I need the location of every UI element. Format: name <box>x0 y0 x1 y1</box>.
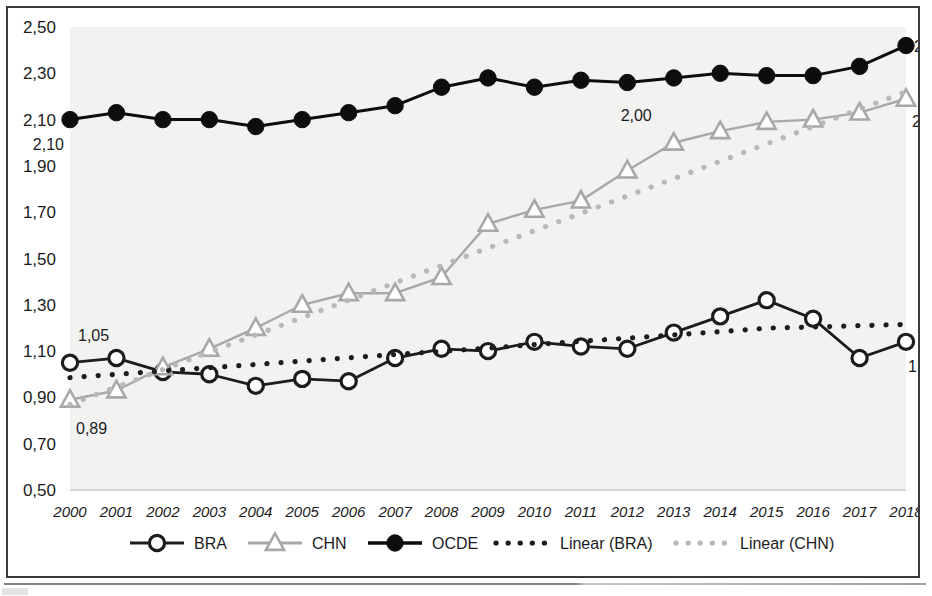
data-point-marker <box>666 70 682 86</box>
y-tick-label: 0,90 <box>23 388 56 407</box>
y-tick-label: 1,10 <box>23 342 56 361</box>
data-point-marker <box>619 74 635 90</box>
data-point-label: 2,10 <box>33 136 64 153</box>
data-point-marker <box>898 37 914 53</box>
plot-background <box>70 27 906 490</box>
data-point-marker <box>620 341 635 356</box>
y-tick-label: 1,70 <box>23 203 56 222</box>
data-point-label: 2,19 <box>912 113 918 130</box>
x-tick-label: 2009 <box>470 503 505 520</box>
x-tick-label: 2014 <box>703 503 737 520</box>
data-point-label: 1,14 <box>908 358 918 375</box>
data-point-label: 2,42 <box>914 38 918 55</box>
scan-artifact-line <box>4 583 926 585</box>
legend-item-chn[interactable]: CHN <box>248 533 347 552</box>
legend-item-bra[interactable]: BRA <box>130 535 227 552</box>
data-point-marker <box>155 111 171 127</box>
data-point-marker <box>480 70 496 86</box>
chart-legend: BRACHNOCDELinear (BRA)Linear (CHN) <box>130 533 834 552</box>
y-tick-label: 0,70 <box>23 435 56 454</box>
data-point-marker <box>248 118 264 134</box>
y-tick-label: 2,50 <box>23 18 56 37</box>
line-chart: 0,500,700,901,101,301,501,701,902,102,30… <box>8 8 918 576</box>
legend-label: Linear (BRA) <box>560 535 652 552</box>
data-point-marker <box>248 378 263 393</box>
x-tick-label: 2000 <box>52 503 87 520</box>
x-tick-label: 2005 <box>285 503 320 520</box>
legend-label: CHN <box>312 535 347 552</box>
x-tick-label: 2007 <box>377 503 412 520</box>
data-point-marker <box>898 334 913 349</box>
data-point-marker <box>758 67 774 83</box>
data-point-label: 2,00 <box>621 107 652 124</box>
y-tick-label: 2,10 <box>23 111 56 130</box>
data-point-marker <box>573 72 589 88</box>
data-point-label: 0,89 <box>76 420 107 437</box>
legend-item-linear-chn[interactable]: Linear (CHN) <box>676 535 834 552</box>
data-point-marker <box>108 104 124 120</box>
data-point-marker <box>852 350 867 365</box>
data-point-marker <box>62 355 77 370</box>
x-tick-label: 2018 <box>888 503 918 520</box>
data-point-marker <box>341 374 356 389</box>
data-point-marker <box>759 293 774 308</box>
data-point-marker <box>851 58 867 74</box>
data-point-marker <box>806 311 821 326</box>
x-tick-label: 2016 <box>795 503 830 520</box>
x-tick-label: 2006 <box>331 503 366 520</box>
data-point-marker <box>712 65 728 81</box>
data-point-marker <box>295 371 310 386</box>
x-tick-label: 2004 <box>238 503 272 520</box>
x-tick-label: 2008 <box>424 503 459 520</box>
y-axis-tick-labels: 0,500,700,901,101,301,501,701,902,102,30… <box>23 18 56 500</box>
legend-label: OCDE <box>432 535 478 552</box>
scan-artifact-smudge <box>2 588 28 595</box>
data-point-marker <box>109 350 124 365</box>
x-axis-tick-labels: 2000200120022003200420052006200720082009… <box>52 503 918 520</box>
x-tick-label: 2012 <box>610 503 645 520</box>
data-point-marker <box>62 111 78 127</box>
data-point-marker <box>294 111 310 127</box>
chart-frame: 0,500,700,901,101,301,501,701,902,102,30… <box>6 6 920 578</box>
legend-item-linear-bra[interactable]: Linear (BRA) <box>496 535 652 552</box>
x-tick-label: 2010 <box>517 503 552 520</box>
x-tick-label: 2011 <box>564 503 597 520</box>
x-tick-label: 2002 <box>145 503 180 520</box>
x-tick-label: 2017 <box>842 503 877 520</box>
scanned-page: 0,500,700,901,101,301,501,701,902,102,30… <box>0 0 932 596</box>
data-point-marker <box>526 79 542 95</box>
data-point-marker <box>387 98 403 114</box>
data-point-marker <box>713 309 728 324</box>
legend-label: Linear (CHN) <box>740 535 834 552</box>
data-point-marker <box>433 79 449 95</box>
y-tick-label: 1,90 <box>23 157 56 176</box>
data-point-marker <box>201 111 217 127</box>
y-tick-label: 1,30 <box>23 296 56 315</box>
x-tick-label: 2003 <box>192 503 227 520</box>
legend-marker <box>149 535 164 550</box>
x-tick-label: 2013 <box>656 503 691 520</box>
data-point-label: 1,05 <box>78 327 109 344</box>
legend-label: BRA <box>194 535 227 552</box>
x-tick-label: 2015 <box>749 503 784 520</box>
y-tick-label: 0,50 <box>23 481 56 500</box>
legend-item-ocde[interactable]: OCDE <box>368 535 478 552</box>
legend-marker <box>387 535 403 551</box>
x-tick-label: 2001 <box>99 503 133 520</box>
y-tick-label: 1,50 <box>23 250 56 269</box>
data-point-marker <box>340 104 356 120</box>
y-tick-label: 2,30 <box>23 64 56 83</box>
data-point-marker <box>805 67 821 83</box>
